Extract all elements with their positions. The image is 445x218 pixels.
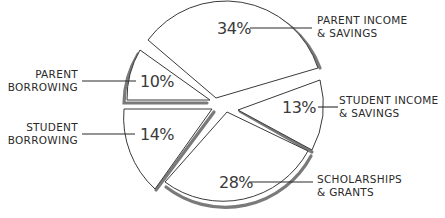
pie-chart: 34% 13% 28% 14% 10% PARENT INCOME & SAVI… (0, 0, 445, 218)
pct-label-parent-borrowing: 10% (140, 72, 174, 91)
pct-label-student-borrowing: 14% (140, 125, 174, 144)
category-label-parent-borrowing-line1: PARENT (35, 68, 78, 80)
category-label-student-borrowing-line1: STUDENT (26, 121, 78, 133)
category-label-student-income-line2: & SAVINGS (339, 107, 400, 119)
category-label-parent-income-line1: PARENT INCOME (317, 14, 408, 26)
category-label-student-borrowing-line2: BORROWING (8, 134, 78, 146)
category-label-parent-income-line2: & SAVINGS (317, 27, 378, 39)
pct-label-parent-income: 34% (217, 19, 251, 38)
pct-label-scholarships: 28% (219, 173, 253, 192)
category-label-scholarships-line2: & GRANTS (317, 186, 374, 198)
category-label-scholarships-line1: SCHOLARSHIPS (317, 173, 402, 185)
category-label-student-income-line1: STUDENT INCOME (339, 94, 439, 106)
category-label-parent-borrowing-line2: BORROWING (8, 81, 78, 93)
pct-label-student-income: 13% (282, 98, 316, 117)
